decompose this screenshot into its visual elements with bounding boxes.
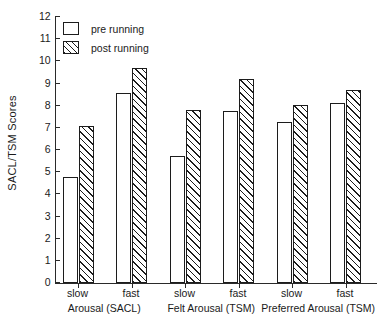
empty-square-swatch-icon [63,22,79,35]
y-axis-tick: 2 [55,238,60,239]
bar-pre-running [223,111,238,283]
x-axis-category-label: fast [123,287,140,299]
y-axis-tick: 3 [55,216,60,217]
legend-label: pre running [91,23,144,35]
y-axis-tick-label: 3 [45,209,51,224]
y-axis-tick: 9 [55,83,60,84]
x-axis-category-label: slow [281,287,302,299]
y-axis-tick: 5 [55,171,60,172]
y-axis-tick-label: 6 [45,142,51,157]
legend-item-post-running: post running [63,39,213,56]
y-axis-tick-label: 0 [45,275,51,290]
y-axis-tick-label: 12 [39,9,51,24]
y-axis-tick: 4 [55,193,60,194]
x-axis-category-label: slow [67,287,88,299]
y-axis-tick-label: 2 [45,231,51,246]
bar-post-running [346,90,361,283]
x-axis-category-label: slow [174,287,195,299]
bar-pre-running [170,156,185,283]
bar-pre-running [330,103,345,283]
bar-pre-running [63,177,78,283]
bar-post-running [239,79,254,283]
legend-item-pre-running: pre running [63,20,213,37]
bar-post-running [186,110,201,283]
y-axis-tick-label: 5 [45,164,51,179]
x-axis-group-label: Preferred Arousal (TSM) [261,302,375,314]
x-axis-category-label: fast [337,287,354,299]
x-axis-group-labels: Arousal (SACL)Felt Arousal (TSM)Preferre… [55,302,377,320]
bar-chart-figure: SACL/TSM Scores 0123456789101112 slowfas… [0,0,389,322]
y-axis-title-text: SACL/TSM Scores [6,95,18,190]
bar-pre-running [277,122,292,283]
bar-post-running [132,68,147,283]
y-axis-tick-label: 10 [39,53,51,68]
y-axis-tick: 10 [55,60,60,61]
y-axis-tick-label: 4 [45,186,51,201]
y-axis-tick-label: 11 [40,31,51,46]
x-axis-group-label: Arousal (SACL) [68,302,141,314]
y-axis-tick: 0 [55,282,60,283]
y-axis-tick-label: 9 [45,76,51,91]
y-axis-tick: 8 [55,105,60,106]
y-axis-tick: 1 [55,260,60,261]
x-axis-category-label: fast [230,287,247,299]
y-axis-title: SACL/TSM Scores [2,0,22,285]
y-axis-tick-label: 7 [45,120,51,135]
hatched-square-swatch-icon [63,41,79,54]
y-axis-tick: 12 [55,16,60,17]
legend-label: post running [91,42,149,54]
y-axis-tick: 7 [55,127,60,128]
y-axis-tick-label: 8 [45,98,51,113]
y-axis-tick: 6 [55,149,60,150]
bar-post-running [79,126,94,283]
chart-legend: pre running post running [63,20,213,58]
y-axis-tick-label: 1 [45,253,51,268]
bar-post-running [293,105,308,283]
x-axis-group-label: Felt Arousal (TSM) [167,302,255,314]
y-axis-tick: 11 [55,38,60,39]
bar-pre-running [116,93,131,283]
